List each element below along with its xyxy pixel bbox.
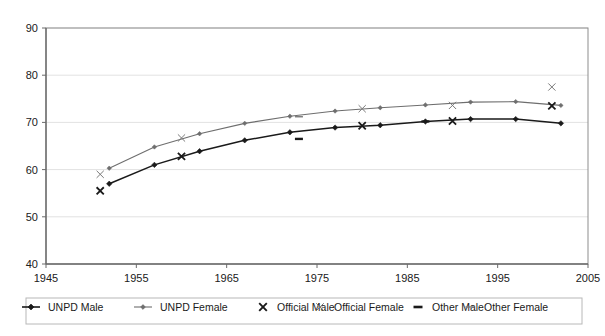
chart-background — [0, 0, 605, 336]
x-tick-label-1995: 1995 — [485, 272, 509, 284]
x-tick-label-1965: 1965 — [214, 272, 238, 284]
legend-label: Other Female — [484, 301, 548, 313]
chart-container: 405060708090 194519551965197519851995200… — [0, 0, 605, 336]
x-tick-label-1955: 1955 — [124, 272, 148, 284]
x-tick-label-2005: 2005 — [576, 272, 600, 284]
y-tick-label-60: 60 — [26, 164, 38, 176]
life-expectancy-line-chart: 405060708090 194519551965197519851995200… — [0, 0, 605, 336]
legend-label: UNPD Male — [48, 301, 104, 313]
legend-label: UNPD Female — [160, 301, 228, 313]
x-tick-label-1945: 1945 — [34, 272, 58, 284]
y-tick-label-90: 90 — [26, 22, 38, 34]
legend-label: Official Female — [334, 301, 404, 313]
x-tick-label-1975: 1975 — [305, 272, 329, 284]
legend-label: Official Male — [277, 301, 335, 313]
x-tick-label-1985: 1985 — [395, 272, 419, 284]
y-tick-label-40: 40 — [26, 258, 38, 270]
y-tick-label-80: 80 — [26, 69, 38, 81]
y-tick-label-70: 70 — [26, 116, 38, 128]
y-tick-label-50: 50 — [26, 211, 38, 223]
legend-label: Other Male — [432, 301, 484, 313]
chart-legend[interactable]: UNPD MaleUNPD FemaleOfficial MaleOfficia… — [22, 298, 582, 324]
